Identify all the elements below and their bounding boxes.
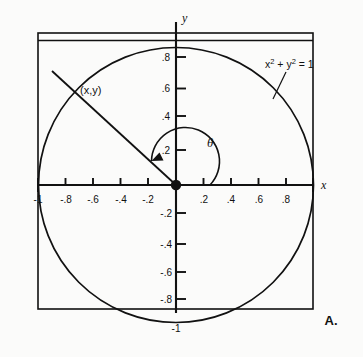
x-tick-label: -.8 xyxy=(60,194,72,205)
radius-ray-line xyxy=(52,71,176,185)
x-tick-label: -1 xyxy=(34,194,43,205)
point-xy-label: (x,y) xyxy=(80,84,101,96)
x-axis-tick-labels: -1 -.8 -.6 -.4 -.2 .2 .4 .6 .8 xyxy=(34,194,291,205)
y-tick-label: .6 xyxy=(162,83,171,94)
x-tick-label: -.2 xyxy=(142,194,154,205)
x-tick-label: -.6 xyxy=(87,194,99,205)
theta-label: θ xyxy=(207,135,214,150)
y-tick-label: -.6 xyxy=(160,267,172,278)
x-tick-label: .8 xyxy=(282,194,291,205)
circle-equation-label: x2 + y2 = 1 xyxy=(265,57,314,70)
y-tick-label-minus-one: -1 xyxy=(172,323,181,334)
x-tick-label: .6 xyxy=(255,194,264,205)
equation-equals-one: = 1 xyxy=(296,58,314,70)
x-tick-label: .2 xyxy=(200,194,209,205)
y-axis-ticks xyxy=(176,57,186,299)
y-tick-label: .8 xyxy=(162,52,171,63)
y-tick-label: -.8 xyxy=(160,294,172,305)
x-tick-label: .4 xyxy=(227,194,236,205)
unit-circle-figure: -1 -.8 -.6 -.4 -.2 .2 .4 .6 .8 .8 .6 .4 … xyxy=(0,0,363,357)
x-tick-label: -.4 xyxy=(115,194,127,205)
x-axis-label: x xyxy=(320,178,327,192)
y-axis-label: y xyxy=(181,11,188,25)
unit-circle-diagram: -1 -.8 -.6 -.4 -.2 .2 .4 .6 .8 .8 .6 .4 … xyxy=(0,0,363,357)
y-tick-label: -.4 xyxy=(160,239,172,250)
y-tick-label: -.2 xyxy=(160,208,172,219)
y-axis-tick-labels: .8 .6 .4 .2 -.2 -.4 -.6 -.8 -1 xyxy=(160,52,181,334)
equation-plus: + xyxy=(274,58,286,70)
y-tick-label: .2 xyxy=(162,145,171,156)
panel-label: A. xyxy=(325,313,338,328)
y-tick-label: .4 xyxy=(162,111,171,122)
